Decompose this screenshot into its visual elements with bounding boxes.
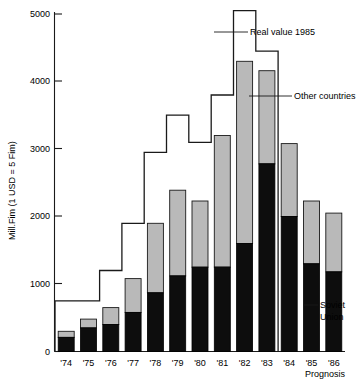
x-tick-label: '83 (261, 358, 273, 368)
y-tick-label: 0 (45, 347, 50, 357)
bar-segment-other-countries (192, 201, 208, 267)
x-tick-label: '82 (239, 358, 251, 368)
bar-segment-other-countries (81, 319, 97, 328)
x-tick-label: '74 (60, 358, 72, 368)
bar-segment-other-countries (125, 279, 141, 313)
bar-group (170, 190, 186, 351)
bar-segment-other-countries (259, 71, 275, 164)
bar-group (259, 71, 275, 352)
x-tick-label: '80 (194, 358, 206, 368)
bar-segment-soviet-union (214, 267, 230, 351)
bar-group (58, 331, 74, 351)
bar-segment-other-countries (326, 213, 342, 272)
bar-segment-other-countries (147, 223, 163, 292)
x-tick-label: '77 (127, 358, 139, 368)
bar-segment-soviet-union (304, 264, 320, 352)
annotation-soviet-union-line1: Soviet (320, 300, 346, 310)
x-tick-label: '81 (216, 358, 228, 368)
bar-segment-soviet-union (192, 267, 208, 351)
bar-segment-soviet-union (259, 164, 275, 352)
y-axis-title: Mill.Fim (1 USD = 5 Fim) (7, 141, 17, 240)
bar-group (326, 213, 342, 351)
bar-group (192, 201, 208, 352)
bar-segment-other-countries (281, 144, 297, 217)
bar-segment-soviet-union (147, 293, 163, 352)
bar-segment-soviet-union (125, 312, 141, 351)
annotation-other-countries: Other countries (294, 91, 356, 101)
bar-segment-other-countries (58, 331, 74, 337)
x-tick-label: '78 (150, 358, 162, 368)
bar-group (147, 223, 163, 351)
bar-segment-soviet-union (170, 276, 186, 352)
bar-group (281, 144, 297, 352)
y-tick-label: 5000 (30, 9, 50, 19)
bar-group (304, 201, 320, 352)
bar-segment-other-countries (237, 61, 253, 243)
bar-group (125, 279, 141, 352)
bar-segment-other-countries (103, 308, 119, 325)
bar-segment-other-countries (304, 201, 320, 264)
x-tick-label: '75 (83, 358, 95, 368)
bar-group (237, 61, 253, 351)
y-tick-label: 1000 (30, 279, 50, 289)
bar-segment-soviet-union (281, 217, 297, 352)
x-axis-tick-labels: '74'75'76'77'78'79'80'81'82'83'84'85'86 (60, 358, 339, 368)
y-tick-label: 3000 (30, 144, 50, 154)
bars-group (58, 61, 342, 351)
bar-segment-soviet-union (81, 328, 97, 352)
annotation-soviet-union-line2: Union (320, 312, 344, 322)
chart-container: 0 1000 2000 3000 4000 5000 Mill.Fim (1 U… (0, 0, 360, 384)
x-tick-label: '85 (306, 358, 318, 368)
bar-group (103, 308, 119, 352)
y-axis-tick-labels: 0 1000 2000 3000 4000 5000 (30, 9, 50, 357)
x-tick-label: '84 (283, 358, 295, 368)
bar-segment-other-countries (214, 136, 230, 268)
annotation-real-value-1985: Real value 1985 (250, 27, 315, 37)
prognosis-label: Prognosis (305, 369, 346, 379)
bar-segment-soviet-union (103, 325, 119, 352)
y-tick-label: 4000 (30, 76, 50, 86)
x-tick-label: '79 (172, 358, 184, 368)
bar-group (81, 319, 97, 351)
bar-chart-svg: 0 1000 2000 3000 4000 5000 Mill.Fim (1 U… (0, 0, 360, 384)
bar-segment-soviet-union (237, 244, 253, 352)
bar-segment-other-countries (170, 190, 186, 276)
bar-segment-soviet-union (58, 337, 74, 351)
x-tick-label: '76 (105, 358, 117, 368)
bar-group (214, 136, 230, 352)
y-tick-label: 2000 (30, 211, 50, 221)
x-tick-label: '86 (328, 358, 340, 368)
